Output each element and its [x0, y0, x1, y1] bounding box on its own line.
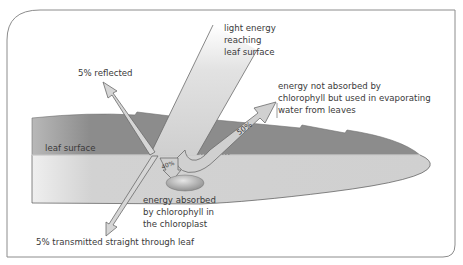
- reflected-label: 5% reflected: [78, 67, 133, 79]
- absorbed-label: energy absorbed by chlorophyll in the ch…: [143, 194, 216, 230]
- evaporation-label: energy not absorbed by chlorophyll but u…: [278, 80, 431, 116]
- leaf-surface-label: leaf surface: [45, 142, 95, 154]
- transmitted-label: 5% transmitted straight through leaf: [36, 236, 194, 248]
- light-incoming-label: light energy reaching leaf surface: [224, 22, 276, 58]
- chloroplast: [166, 175, 204, 191]
